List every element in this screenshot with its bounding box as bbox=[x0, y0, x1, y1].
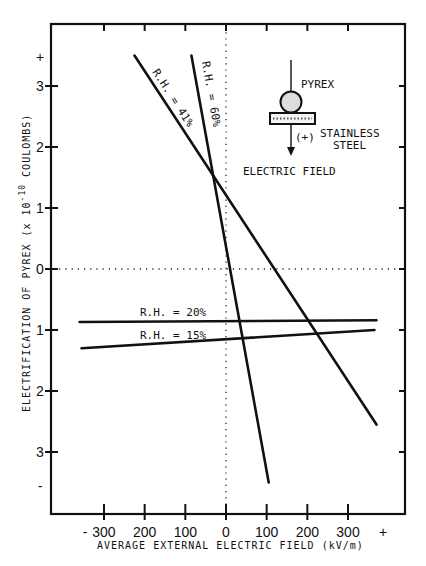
x-tick-label: - bbox=[83, 524, 88, 540]
y-tick-label: 2 bbox=[36, 139, 44, 155]
y-tick-label: + bbox=[36, 49, 44, 65]
series-line-20 bbox=[80, 320, 377, 322]
y-tick-label: 0 bbox=[36, 261, 44, 277]
electric-field-label: ELECTRIC FIELD bbox=[243, 165, 336, 178]
x-tick-label: 200 bbox=[296, 524, 320, 540]
series-lines bbox=[80, 56, 377, 483]
y-tick-label: 3 bbox=[36, 444, 44, 460]
series-line-15 bbox=[82, 330, 375, 348]
y-tick-label: 1 bbox=[36, 200, 44, 216]
plot-frame bbox=[51, 24, 405, 514]
chart-canvas: -3002001000100200300+ +3210123- R.H. = 4… bbox=[0, 0, 426, 566]
y-tick-label: 3 bbox=[36, 78, 44, 94]
y-axis-title: ELECTRIFICATION OF PYREX (x 10-10 COULOM… bbox=[18, 114, 32, 412]
x-tick-label: 300 bbox=[336, 524, 360, 540]
x-tick-label: 100 bbox=[255, 524, 279, 540]
polarity-label: (+) bbox=[295, 131, 315, 144]
x-tick-label: + bbox=[379, 524, 387, 540]
x-tick-label: 300 bbox=[92, 524, 116, 540]
inset-diagram: PYREX (+) STAINLESS STEEL ELECTRIC FIELD bbox=[243, 60, 380, 178]
pyrex-sphere-icon bbox=[281, 92, 302, 113]
y-tick-label: 2 bbox=[36, 383, 44, 399]
series-label-rh41: R.H. = 41% bbox=[149, 67, 196, 130]
series-label-rh15: R.H. = 15% bbox=[140, 329, 207, 342]
x-axis-ticks: -3002001000100200300+ bbox=[83, 24, 387, 540]
x-axis-title: AVERAGE EXTERNAL ELECTRIC FIELD (kV/m) bbox=[97, 540, 364, 551]
x-tick-label: 0 bbox=[222, 524, 230, 540]
series-line-60 bbox=[191, 56, 268, 483]
arrowhead-icon bbox=[287, 147, 295, 156]
x-tick-label: 200 bbox=[133, 524, 157, 540]
x-tick-label: 100 bbox=[174, 524, 198, 540]
series-line-41 bbox=[134, 56, 376, 425]
y-tick-label: 1 bbox=[36, 322, 44, 338]
pyrex-label: PYREX bbox=[301, 78, 334, 91]
steel-label: STEEL bbox=[333, 139, 366, 152]
y-tick-label: - bbox=[38, 478, 43, 494]
series-label-rh20: R.H. = 20% bbox=[140, 306, 207, 319]
